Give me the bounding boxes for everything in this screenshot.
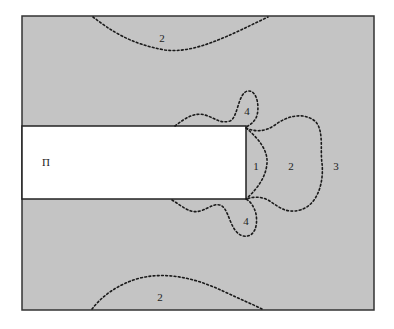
zone-label-3: 3 bbox=[333, 160, 339, 172]
zone-diagram: П 2 4 1 2 4 2 3 bbox=[0, 0, 394, 329]
zone-label-2-bottom: 2 bbox=[157, 291, 163, 303]
zone-label-1: 1 bbox=[253, 160, 259, 172]
excavation-rect bbox=[22, 126, 246, 199]
zone-label-2-right: 2 bbox=[288, 160, 294, 172]
excavation-label: П bbox=[42, 156, 50, 168]
zone-label-4-upper: 4 bbox=[244, 105, 250, 117]
zone-label-2-top: 2 bbox=[159, 32, 165, 44]
zone-label-4-lower: 4 bbox=[243, 215, 249, 227]
